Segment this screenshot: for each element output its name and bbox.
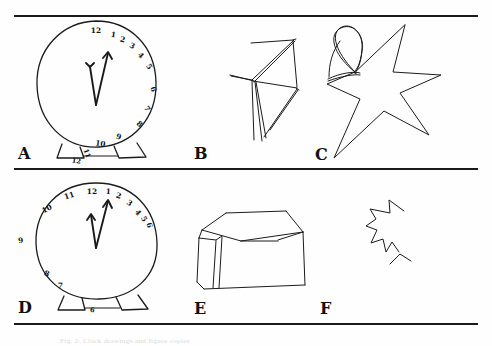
rule-bottom: [14, 323, 478, 325]
clock-d-number-6-6: 6: [144, 221, 154, 229]
clock-d-number-10-8: 10: [40, 202, 53, 215]
clock-a-number-3-3: 3: [128, 41, 137, 51]
clock-d-outside-number-6-0: 6: [89, 306, 95, 315]
clock-a-outside-numbers: 1112: [71, 148, 92, 166]
clock-d-number-8-10: 8: [43, 269, 51, 279]
figure-caption: Fig. 2. Clock drawings and figure copies: [60, 337, 190, 345]
clock-a-number-4-4: 4: [136, 50, 146, 60]
panel-c-figure-copy: [327, 25, 441, 158]
panel-label-c: C: [315, 147, 328, 163]
clock-a-number-1-1: 1: [110, 30, 116, 40]
panel-label-e: E: [194, 301, 206, 317]
clock-a-face-numbers: 1212345678910: [91, 26, 159, 149]
clock-a-number-8-8: 8: [135, 119, 145, 129]
panel-label-d: D: [18, 300, 32, 316]
clock-d-number-2-2: 2: [115, 191, 123, 201]
clock-d-number-9-9: 9: [17, 236, 23, 246]
clock-a-number-12-0: 12: [91, 26, 101, 35]
clock-d-number-7-11: 7: [57, 281, 63, 290]
panel-e-figure-copy: [197, 211, 305, 289]
panel-d-clock-drawing: [36, 183, 157, 310]
clock-d-number-3-3: 3: [125, 198, 134, 208]
clock-d-number-4-4: 4: [133, 208, 143, 218]
clock-d-number-5-5: 5: [139, 214, 149, 223]
panel-f-figure-copy: [366, 200, 411, 264]
clock-a-outside-number-11-0: 11: [82, 148, 93, 159]
drawings-layer: [0, 0, 492, 346]
panel-label-f: F: [320, 301, 331, 317]
figure-sheet: 1212345678910 1112 121234561110987 6 A B…: [0, 0, 492, 346]
panel-label-a: A: [18, 146, 30, 162]
clock-d-number-1-1: 1: [105, 187, 111, 196]
panel-b-figure-copy: [230, 39, 299, 141]
clock-a-outside-number-12-1: 12: [71, 156, 81, 165]
clock-a-number-5-5: 5: [144, 62, 154, 71]
clock-d-number-12-0: 12: [87, 187, 97, 196]
clock-a-number-6-6: 6: [148, 85, 158, 93]
clock-a-number-10-10: 10: [95, 138, 106, 148]
clock-a-number-9-9: 9: [115, 132, 123, 142]
panel-label-b: B: [194, 146, 208, 162]
clock-a-number-2-2: 2: [119, 35, 126, 45]
clock-d-outside-numbers: 6: [89, 306, 95, 315]
clock-d-face-numbers: 121234561110987: [17, 187, 154, 290]
clock-a-numbers: 1212345678910 1112 121234561110987 6: [0, 0, 492, 346]
clock-a-number-7-7: 7: [142, 104, 152, 113]
panel-a-clock-drawing: [37, 21, 156, 158]
clock-d-number-11-7: 11: [63, 190, 76, 202]
rule-top: [14, 15, 478, 17]
rule-middle: [14, 168, 478, 170]
